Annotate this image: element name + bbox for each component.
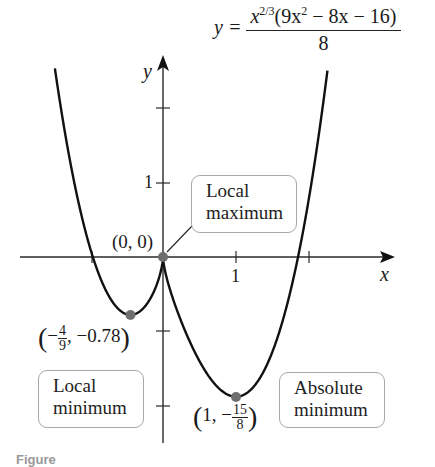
- y-axis-label: y: [143, 60, 152, 83]
- abs-min-box: Absolute minimum: [279, 372, 385, 428]
- local-min-fraction: 49: [58, 324, 67, 353]
- equation-fraction: x2/3(9x2 − 8x − 16) 8: [246, 4, 400, 55]
- local-max-box-line1: Local: [206, 180, 296, 202]
- function-equation: y = x2/3(9x2 − 8x − 16) 8: [214, 4, 401, 55]
- y-tick-label-1: 1: [144, 172, 153, 193]
- local-min-box-line1: Local: [53, 375, 143, 397]
- local-max-box: Local maximum: [191, 175, 297, 233]
- x-tick-label-1: 1: [231, 266, 240, 287]
- point-local-max: [158, 252, 168, 262]
- origin-label: (0, 0): [112, 231, 153, 253]
- local-max-leader: [167, 226, 192, 252]
- abs-min-point-label: (1, −158): [193, 401, 257, 433]
- local-min-point-label: (−49, −0.78): [38, 322, 130, 354]
- x-axis-label: x: [380, 263, 389, 286]
- abs-min-fraction: 158: [232, 403, 248, 432]
- equation-numerator: x2/3(9x2 − 8x − 16): [246, 4, 400, 30]
- equation-denominator: 8: [246, 30, 400, 55]
- point-local-min: [126, 310, 136, 320]
- local-min-box: Local minimum: [38, 370, 144, 428]
- local-max-box-line2: maximum: [206, 202, 296, 224]
- equation-lhs: y =: [214, 16, 241, 38]
- figure-caption: Figure: [16, 452, 56, 467]
- abs-min-box-line2: minimum: [294, 399, 384, 421]
- local-min-box-line2: minimum: [53, 397, 143, 419]
- abs-min-box-line1: Absolute: [294, 377, 384, 399]
